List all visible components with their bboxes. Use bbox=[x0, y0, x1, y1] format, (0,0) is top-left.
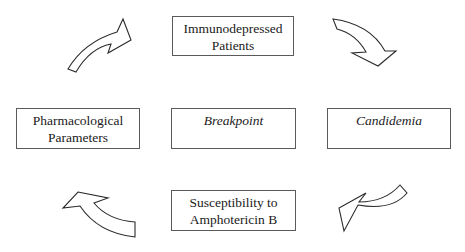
node-susceptibility-amphotericin-b: Susceptibility to Amphotericin B bbox=[171, 190, 296, 231]
curved-arrow-up-left-icon bbox=[63, 192, 135, 237]
node-immunodepressed-patients: Immunodepressed Patients bbox=[172, 16, 294, 56]
node-breakpoint: Breakpoint bbox=[171, 108, 296, 149]
node-label-line: Parameters bbox=[17, 129, 139, 146]
node-label-line: Pharmacological bbox=[17, 112, 139, 129]
node-label-line: Patients bbox=[173, 37, 293, 54]
node-label-line: Immunodepressed bbox=[173, 20, 293, 37]
node-label-line: Candidemia bbox=[328, 112, 450, 129]
node-label-line: Amphotericin B bbox=[172, 211, 295, 228]
node-label-line: Susceptibility to bbox=[172, 194, 295, 211]
node-candidemia: Candidemia bbox=[327, 108, 451, 149]
curved-arrow-down-right-icon bbox=[333, 19, 396, 66]
node-pharmacological-parameters: Pharmacological Parameters bbox=[16, 108, 140, 149]
curved-arrow-up-right-icon bbox=[68, 19, 131, 72]
node-label-line: Breakpoint bbox=[172, 112, 295, 129]
curved-arrow-down-left-icon bbox=[339, 185, 407, 231]
